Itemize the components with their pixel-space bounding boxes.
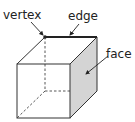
- cube-diagram: vertex edge face: [0, 0, 135, 122]
- face-label: face: [106, 47, 132, 61]
- vertex-arrow-icon: [31, 22, 43, 35]
- hidden-edges: [17, 37, 70, 118]
- vertex-dot: [43, 35, 47, 39]
- edge-label: edge: [68, 9, 98, 23]
- shaded-face: [70, 37, 97, 118]
- edge-arrow-icon: [70, 24, 79, 35]
- vertex-label: vertex: [3, 8, 41, 22]
